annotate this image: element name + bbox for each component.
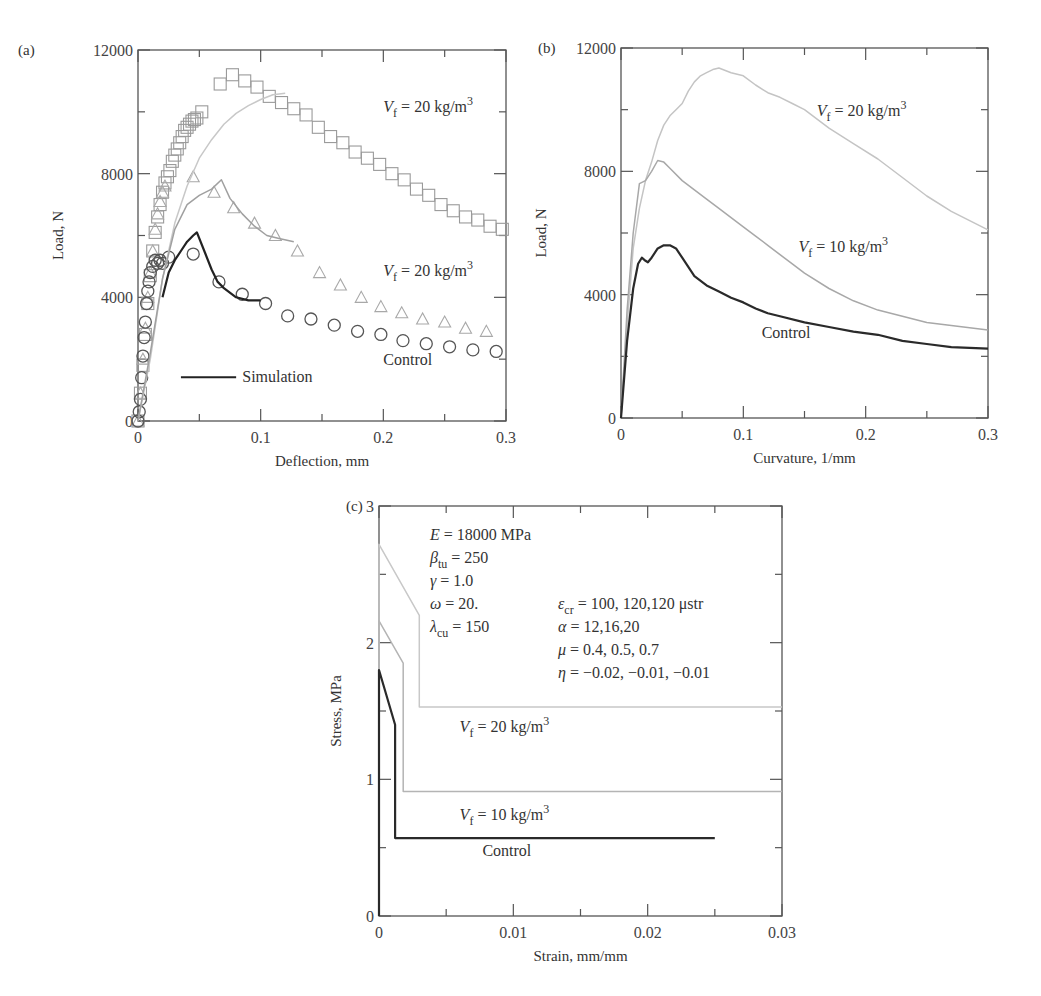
y-tick-label: 12000 <box>93 42 133 59</box>
annotation-label: Vf = 20 kg/m3 <box>460 714 550 740</box>
y-tick-label: 4000 <box>101 289 133 306</box>
square-marker <box>386 168 398 180</box>
square-marker <box>349 146 361 158</box>
marker-series <box>132 69 508 427</box>
square-marker <box>325 131 337 143</box>
annotation-label: Vf = 20 kg/m3 <box>817 98 907 124</box>
triangle-marker <box>314 267 326 278</box>
y-axis-label: Stress, MPa <box>328 675 344 747</box>
panel-label: (c) <box>346 498 363 515</box>
parameter-left: γ = 1.0 <box>430 572 473 590</box>
triangle-marker <box>355 291 367 302</box>
circle-marker <box>352 325 364 337</box>
y-tick-label: 4000 <box>584 287 616 304</box>
chart-c-stress-strain: 00.010.020.030123Strain, mm/mmStress, MP… <box>328 498 796 964</box>
y-axis-label: Load, N <box>50 211 66 260</box>
y-tick-label: 2 <box>366 635 374 652</box>
parameter-right: η = −0.02, −0.01, −0.01 <box>558 664 710 682</box>
y-axis-label: Load, N <box>533 208 549 257</box>
parameter-right: μ = 0.4, 0.5, 0.7 <box>557 641 659 659</box>
square-marker <box>288 103 300 115</box>
panel-label: (b) <box>538 40 556 57</box>
parameter-left: λcu = 150 <box>429 618 489 640</box>
annotation-label: Control <box>383 351 432 368</box>
x-tick-label: 0.01 <box>499 924 527 941</box>
square-marker <box>460 211 472 223</box>
chart-a-load-deflection: 00.10.20.304000800012000Deflection, mmLo… <box>18 42 516 469</box>
triangle-marker <box>439 316 451 327</box>
x-axis-label: Strain, mm/mm <box>533 948 628 964</box>
square-marker <box>154 199 166 211</box>
circle-marker <box>260 298 272 310</box>
square-marker <box>337 137 349 149</box>
square-marker <box>226 69 238 81</box>
circle-marker <box>282 310 294 322</box>
triangle-marker <box>157 186 169 197</box>
parameter-right: α = 12,16,20 <box>558 618 639 635</box>
chart-b-load-curvature: 00.10.20.304000800012000Curvature, 1/mmL… <box>533 40 998 466</box>
square-marker <box>374 158 386 170</box>
triangle-marker <box>375 301 387 312</box>
x-tick-label: 0.1 <box>251 429 271 446</box>
triangle-marker <box>334 279 346 290</box>
marker-series <box>132 171 492 426</box>
y-tick-label: 0 <box>366 908 374 925</box>
triangle-marker <box>149 223 161 234</box>
square-marker <box>447 205 459 217</box>
circle-marker <box>328 319 340 331</box>
x-tick-label: 0.2 <box>373 429 393 446</box>
circle-marker <box>375 328 387 340</box>
square-marker <box>152 211 164 223</box>
circle-marker <box>444 341 456 353</box>
x-tick-label: 0.1 <box>733 426 753 443</box>
triangle-marker <box>152 208 164 219</box>
y-tick-label: 8000 <box>584 163 616 180</box>
x-axis-label: Deflection, mm <box>275 453 369 469</box>
annotation-label: Vf = 10 kg/m3 <box>798 234 888 260</box>
figure: 00.10.20.304000800012000Deflection, mmLo… <box>0 0 1041 996</box>
square-marker <box>276 97 288 109</box>
x-axis-label: Curvature, 1/mm <box>753 450 856 466</box>
circle-marker <box>420 338 432 350</box>
annotation-label: Vf = 20 kg/m3 <box>383 94 473 120</box>
triangle-marker <box>208 186 220 197</box>
x-tick-label: 0.3 <box>978 426 998 443</box>
circle-marker <box>467 344 479 356</box>
triangle-marker <box>291 245 303 256</box>
square-marker <box>312 121 324 133</box>
circle-marker <box>187 248 199 260</box>
square-marker <box>251 81 263 93</box>
x-tick-label: 0.3 <box>496 429 516 446</box>
panel-label: (a) <box>18 42 35 59</box>
y-tick-label: 12000 <box>576 40 616 57</box>
circle-marker <box>137 350 149 362</box>
square-marker <box>300 109 312 121</box>
circle-marker <box>490 345 502 357</box>
plot-frame <box>621 48 988 418</box>
square-marker <box>423 189 435 201</box>
annotation-label: Control <box>762 324 811 341</box>
square-marker <box>484 220 496 232</box>
parameter-left: ω = 20. <box>430 595 478 612</box>
circle-marker <box>141 298 153 310</box>
x-tick-label: 0.03 <box>768 924 796 941</box>
square-marker <box>214 78 226 90</box>
x-tick-label: 0 <box>617 426 625 443</box>
triangle-marker <box>460 322 472 333</box>
y-tick-label: 3 <box>366 498 374 515</box>
x-tick-label: 0 <box>375 924 383 941</box>
square-marker <box>157 186 169 198</box>
square-marker <box>149 226 161 238</box>
parameter-right: εcr = 100, 120,120 μstr <box>558 595 704 617</box>
x-tick-label: 0.2 <box>856 426 876 443</box>
square-marker <box>239 75 251 87</box>
triangle-marker <box>480 325 492 336</box>
y-tick-label: 0 <box>608 410 616 427</box>
annotation-label: Vf = 10 kg/m3 <box>460 802 550 828</box>
x-tick-label: 0.02 <box>634 924 662 941</box>
circle-marker <box>305 313 317 325</box>
square-marker <box>361 152 373 164</box>
parameter-left: βtu = 250 <box>429 549 488 571</box>
annotation-label: Control <box>482 842 531 859</box>
triangle-marker <box>396 307 408 318</box>
